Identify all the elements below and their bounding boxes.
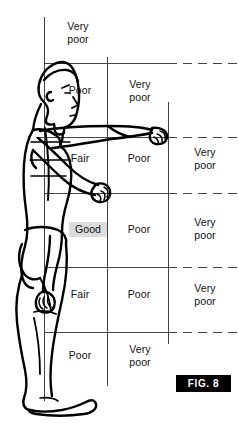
bent-hand-fingers-3 bbox=[97, 194, 101, 201]
hanging-arm-outer bbox=[53, 232, 62, 290]
hairline bbox=[44, 70, 78, 82]
hip-contour bbox=[25, 227, 66, 244]
figure-8-reach-zone-diagram: Very poor Poor Very poor Fair Poor Very … bbox=[0, 0, 239, 428]
zone-label-knee-near: Poor bbox=[56, 349, 104, 362]
extended-arm-elbow-crease bbox=[108, 126, 130, 137]
calf-inner-line bbox=[34, 318, 40, 374]
bent-hand-fingers-2 bbox=[101, 191, 105, 200]
ankle-line bbox=[40, 398, 58, 401]
zone-label-hip-near: Fair bbox=[58, 288, 102, 301]
extended-arm-lower-edge bbox=[52, 133, 152, 148]
leg-front-outline bbox=[51, 244, 67, 396]
zone-label-head-mid: Very poor bbox=[114, 78, 166, 103]
zone-label-head-near: Poor bbox=[56, 84, 104, 97]
zone-label-knee-mid: Very poor bbox=[114, 343, 166, 368]
zone-label-chest-far: Very poor bbox=[180, 146, 230, 171]
foot-outline bbox=[29, 400, 96, 415]
zone-label-hip-mid: Poor bbox=[114, 288, 164, 301]
zone-label-above-shoulder-near: Very poor bbox=[52, 20, 104, 45]
zone-label-chest-near: Fair bbox=[58, 152, 102, 165]
mouth bbox=[70, 115, 75, 116]
figure-caption: FIG. 8 bbox=[176, 375, 231, 392]
zone-label-hip-far: Very poor bbox=[180, 282, 230, 307]
zone-label-chest-mid: Poor bbox=[114, 152, 164, 165]
leg-back-outline bbox=[16, 272, 30, 410]
zone-label-waist-mid: Poor bbox=[114, 223, 164, 236]
nose bbox=[72, 97, 78, 108]
zone-label-waist-near: Good bbox=[69, 222, 107, 237]
ear bbox=[47, 92, 53, 101]
zone-label-waist-far: Very poor bbox=[180, 216, 230, 241]
extended-arm-upper-edge bbox=[40, 126, 152, 131]
neck-back bbox=[33, 104, 41, 130]
